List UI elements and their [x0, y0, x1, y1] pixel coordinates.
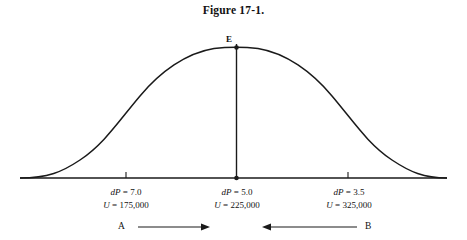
axis-label-center-dp: dP = 5.0 — [177, 186, 297, 199]
axis-label-left-u: U = 175,000 — [66, 199, 186, 212]
flow-label-a: A — [118, 222, 125, 232]
axis-label-right-dp: dP = 3.5 — [289, 186, 409, 199]
axis-label-center: dP = 5.0 U = 225,000 — [177, 186, 297, 211]
peak-label-e: E — [226, 35, 232, 44]
flow-arrow-b — [262, 223, 357, 230]
flow-label-b: B — [365, 222, 371, 232]
flow-arrow-a — [138, 223, 210, 230]
axis-label-center-u: U = 225,000 — [177, 199, 297, 212]
axis-label-right: dP = 3.5 U = 325,000 — [289, 186, 409, 211]
bell-curve-path — [20, 47, 447, 178]
figure-container: Figure 17-1. E dP = 7.0 U = 175,000 — [0, 0, 467, 240]
axis-label-left-dp: dP = 7.0 — [66, 186, 186, 199]
axis-label-left: dP = 7.0 U = 175,000 — [66, 186, 186, 211]
axis-label-right-u: U = 325,000 — [289, 199, 409, 212]
peak-marker-dot — [234, 45, 239, 50]
center-marker-dot — [234, 176, 239, 181]
